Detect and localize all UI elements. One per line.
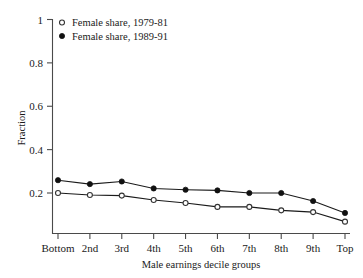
data-point — [183, 187, 188, 192]
data-point — [119, 179, 124, 184]
series-2 — [55, 178, 347, 216]
data-point — [279, 190, 284, 195]
line-chart: 0.20.40.60.81 Bottom2nd3rd4th5th6th7th8t… — [0, 0, 363, 278]
data-point — [342, 210, 347, 215]
data-point — [151, 186, 156, 191]
x-tick-label: Bottom — [41, 242, 74, 254]
data-point — [215, 204, 220, 209]
data-point — [87, 182, 92, 187]
legend-marker-filled-icon — [59, 33, 64, 38]
x-tick-label: Top — [337, 242, 354, 254]
chart-legend: Female share, 1979-81Female share, 1989-… — [59, 17, 168, 42]
y-tick-label: 0.2 — [29, 187, 43, 199]
data-point — [55, 178, 60, 183]
chart-container: 0.20.40.60.81 Bottom2nd3rd4th5th6th7th8t… — [0, 0, 363, 278]
legend-label: Female share, 1979-81 — [72, 17, 168, 28]
y-axis-tick-labels: 0.20.40.60.81 — [29, 14, 43, 200]
data-point — [215, 188, 220, 193]
data-point — [56, 191, 61, 196]
legend-marker-open-icon — [60, 20, 65, 25]
y-axis-ticks — [47, 20, 53, 194]
data-point — [151, 197, 156, 202]
data-point — [247, 190, 252, 195]
x-tick-label: 2nd — [82, 242, 99, 254]
data-point — [247, 204, 252, 209]
x-tick-label: 3rd — [114, 242, 129, 254]
y-tick-label: 0.8 — [29, 57, 43, 69]
data-point — [119, 193, 124, 198]
x-tick-label: 7th — [242, 242, 257, 254]
x-tick-label: 6th — [210, 242, 225, 254]
data-point — [183, 200, 188, 205]
y-tick-label: 1 — [38, 14, 44, 26]
data-point — [87, 192, 92, 197]
data-point — [279, 208, 284, 213]
x-axis-title: Male earnings decile groups — [142, 259, 261, 270]
series-1 — [56, 191, 348, 225]
y-tick-label: 0.4 — [29, 144, 43, 156]
data-point — [343, 219, 348, 224]
series-layer — [55, 178, 347, 225]
data-point — [311, 198, 316, 203]
y-tick-label: 0.6 — [29, 100, 43, 112]
x-axis-ticks — [58, 234, 345, 240]
legend-label: Female share, 1989-91 — [72, 31, 168, 42]
x-axis-tick-labels: Bottom2nd3rd4th5th6th7th8th9thTop — [41, 242, 353, 254]
x-tick-label: 5th — [179, 242, 194, 254]
y-axis-title: Fraction — [16, 110, 27, 146]
x-tick-label: 8th — [274, 242, 289, 254]
series-line — [58, 180, 345, 213]
x-tick-label: 4th — [147, 242, 162, 254]
x-tick-label: 9th — [306, 242, 321, 254]
data-point — [311, 210, 316, 215]
series-line — [58, 193, 345, 222]
